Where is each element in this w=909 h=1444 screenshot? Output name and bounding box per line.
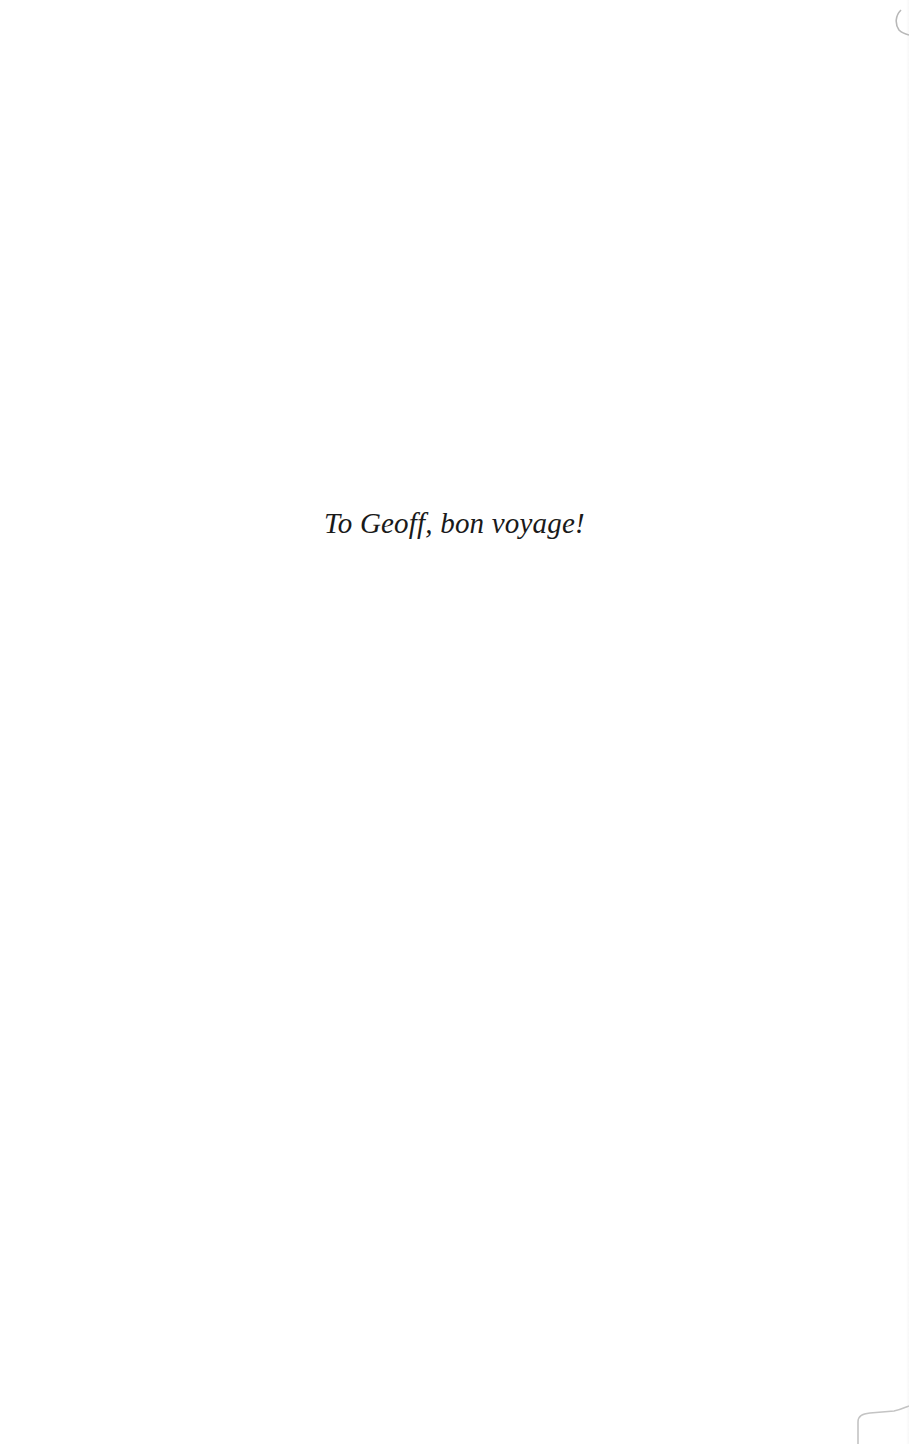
dedication-text: To Geoff, bon voyage! [0,505,909,541]
document-page: To Geoff, bon voyage! [0,0,909,1444]
page-corner-bottom-icon [854,1400,909,1444]
page-curl-top-icon [887,6,909,40]
